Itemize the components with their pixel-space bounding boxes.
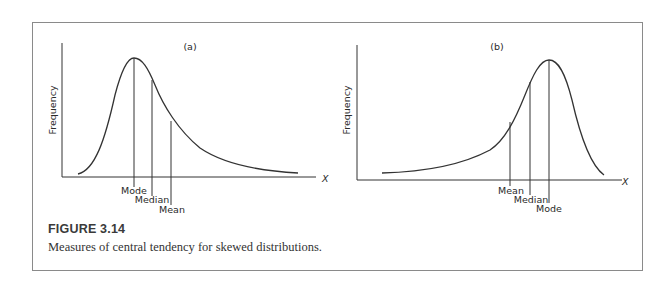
panel-a [62, 43, 316, 205]
mode-label-b: Mode [536, 203, 562, 214]
panel-title-b: (b) [490, 41, 503, 52]
mean-label-a: Mean [159, 204, 185, 215]
panel-title-a: (a) [183, 41, 196, 52]
y-label-b: Frequency [341, 85, 352, 134]
curve-b [382, 60, 604, 175]
figure-caption: Measures of central tendency for skewed … [48, 240, 322, 255]
panel-b [357, 45, 622, 203]
x-label-a: X [321, 173, 329, 184]
curve-a [78, 58, 298, 174]
y-label-a: Frequency [47, 85, 58, 134]
x-label-b: X [621, 176, 629, 187]
figure-title: FIGURE 3.14 [48, 222, 125, 236]
